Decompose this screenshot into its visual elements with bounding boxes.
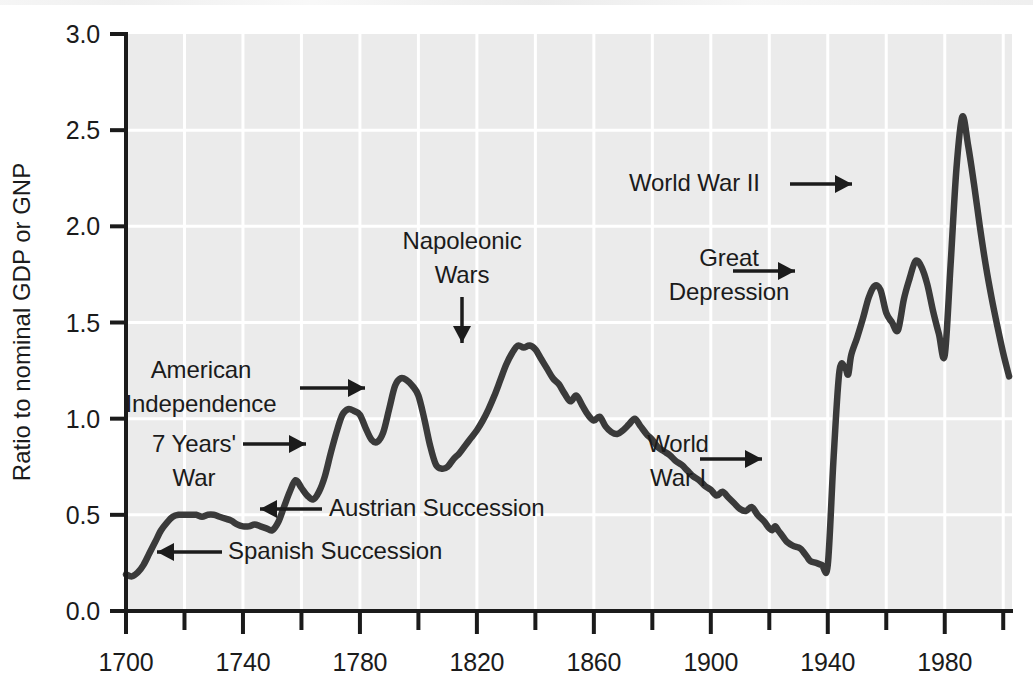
x-axis-tick-marks xyxy=(126,611,1003,634)
annotation-label: Great xyxy=(699,244,759,271)
x-tick-label: 1700 xyxy=(99,648,154,676)
y-axis-tick-marks xyxy=(110,34,126,611)
y-tick-label: 1.5 xyxy=(66,309,100,337)
x-tick-label: 1860 xyxy=(566,648,621,676)
annotation-label: War I xyxy=(650,464,706,491)
chart-figure: 3.02.52.01.51.00.50.0 170017401780182018… xyxy=(0,0,1033,681)
y-tick-label: 0.0 xyxy=(66,597,100,625)
x-tick-label: 1780 xyxy=(333,648,388,676)
y-tick-label: 2.5 xyxy=(66,116,100,144)
annotation-label: Depression xyxy=(669,278,789,305)
y-axis-title: Ratio to nominal GDP or GNP xyxy=(8,163,35,481)
y-tick-label: 1.0 xyxy=(66,405,100,433)
annotation-label: Spanish Succession xyxy=(228,537,442,564)
annotation-label: Austrian Succession xyxy=(329,494,545,521)
annotation-label: American xyxy=(151,356,252,383)
y-axis-tick-labels: 3.02.52.01.51.00.50.0 xyxy=(66,20,100,625)
x-axis-tick-labels: 17001740178018201860190019401980 xyxy=(99,648,973,676)
annotation-label: 7 Years' xyxy=(152,430,236,457)
x-tick-label: 1740 xyxy=(216,648,271,676)
annotation-label: Wars xyxy=(435,261,490,288)
x-tick-label: 1980 xyxy=(917,648,972,676)
x-tick-label: 1820 xyxy=(449,648,504,676)
y-tick-label: 2.0 xyxy=(66,212,100,240)
scan-artifact xyxy=(0,0,1033,5)
x-tick-label: 1940 xyxy=(800,648,855,676)
debt-to-gdp-line-chart: 3.02.52.01.51.00.50.0 170017401780182018… xyxy=(0,0,1033,681)
annotation-label: War xyxy=(173,464,216,491)
annotation-label: Napoleonic xyxy=(402,227,521,254)
annotation-label: World xyxy=(647,430,709,457)
annotation-label: Independence xyxy=(126,390,277,417)
y-tick-label: 0.5 xyxy=(66,501,100,529)
y-tick-label: 3.0 xyxy=(66,20,100,48)
x-tick-label: 1900 xyxy=(683,648,738,676)
annotation-label: World War II xyxy=(629,169,760,196)
